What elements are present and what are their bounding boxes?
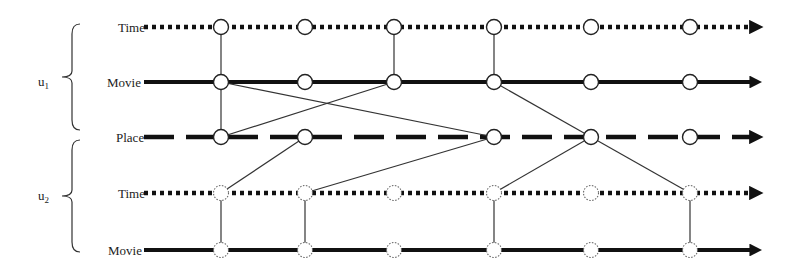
event-node <box>214 243 229 258</box>
event-node <box>487 243 502 258</box>
event-node <box>214 75 229 90</box>
event-node <box>584 75 599 90</box>
event-node <box>487 130 502 145</box>
event-node <box>487 186 502 201</box>
event-node <box>214 130 229 145</box>
event-node <box>683 186 698 201</box>
user-braces <box>62 24 80 252</box>
user-label-u1: u1 <box>38 74 49 91</box>
edge <box>494 82 591 137</box>
user-label-u2: u2 <box>38 188 49 205</box>
event-node <box>683 130 698 145</box>
edge <box>591 137 690 193</box>
event-node <box>584 186 599 201</box>
row-label: Movie <box>108 243 142 258</box>
row-label: Time <box>118 20 145 35</box>
event-node <box>584 243 599 258</box>
edge <box>221 82 394 137</box>
timeline-diagram: u1u2 TimeMoviePlaceTimeMovie <box>0 0 808 276</box>
event-node <box>387 75 402 90</box>
row-label: Movie <box>107 75 141 90</box>
event-node <box>683 20 698 35</box>
event-node <box>387 186 402 201</box>
event-node <box>683 243 698 258</box>
event-node <box>298 130 313 145</box>
row-label: Time <box>118 186 145 201</box>
edge <box>305 137 494 193</box>
event-node <box>298 186 313 201</box>
event-node <box>584 130 599 145</box>
event-node <box>387 20 402 35</box>
edge <box>494 137 591 193</box>
brace <box>62 24 80 130</box>
user-subscript: 1 <box>45 81 50 91</box>
edge <box>221 82 494 137</box>
event-node <box>487 20 502 35</box>
row-labels: TimeMoviePlaceTimeMovie <box>107 20 145 258</box>
event-node <box>214 20 229 35</box>
row-label: Place <box>116 130 144 145</box>
event-node <box>683 75 698 90</box>
event-node <box>298 75 313 90</box>
event-node <box>214 186 229 201</box>
event-node <box>298 20 313 35</box>
user-labels: u1u2 <box>38 74 49 205</box>
event-node <box>487 75 502 90</box>
brace <box>62 140 80 252</box>
event-node <box>298 243 313 258</box>
user-subscript: 2 <box>45 195 50 205</box>
edge <box>221 137 305 193</box>
event-node <box>584 20 599 35</box>
timelines <box>144 27 752 250</box>
event-node <box>387 243 402 258</box>
